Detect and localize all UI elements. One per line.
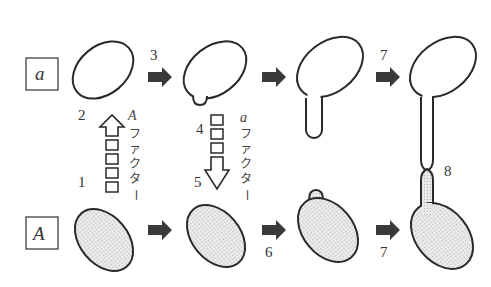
svg-text:フ: フ	[129, 127, 141, 141]
a-factor-label: a フ ァ ク タ ー	[239, 110, 253, 201]
arrow-step-3	[148, 67, 172, 87]
arrow-top-2	[262, 67, 286, 87]
A-factor-signal	[100, 115, 124, 192]
up-arrow-icon	[100, 115, 124, 136]
svg-text:ク: ク	[240, 157, 252, 171]
a-cell-long-projection	[398, 25, 487, 171]
step-label-2: 2	[78, 107, 86, 123]
svg-text:タ: タ	[240, 172, 252, 186]
svg-text:A: A	[127, 108, 137, 123]
mating-type-A-label: A	[31, 223, 45, 244]
diagram-canvas: a A 2 3 7 1 5 6 7	[0, 0, 491, 287]
A-factor-label: A フ ァ ク タ ー	[127, 108, 142, 201]
A-cell-responding	[175, 194, 257, 278]
arrow-bottom-1	[148, 220, 172, 240]
a-factor-signal	[205, 115, 229, 189]
svg-text:タ: タ	[129, 172, 141, 186]
arrow-step-7-top	[376, 67, 400, 87]
step-label-3: 3	[150, 47, 158, 63]
svg-text:ー: ー	[128, 189, 142, 201]
svg-text:フ: フ	[240, 127, 252, 141]
step-label-8: 8	[444, 163, 452, 179]
step-label-7-bottom: 7	[380, 244, 388, 260]
svg-text:ー: ー	[239, 189, 253, 201]
a-cell-projection	[285, 25, 374, 138]
A-cell-fusion-projection	[398, 169, 485, 281]
mating-type-A-box: A	[26, 217, 58, 249]
A-cell-bud-start	[286, 186, 371, 273]
a-cell-resting	[62, 30, 145, 110]
arrow-step-7-bottom	[376, 220, 400, 240]
svg-text:ァ: ァ	[240, 142, 252, 156]
a-cell-bud-start	[173, 30, 258, 111]
svg-text:ァ: ァ	[129, 142, 141, 156]
step-label-4: 4	[196, 121, 204, 137]
mating-type-a-label: a	[35, 63, 45, 84]
mating-type-a-box: a	[26, 58, 58, 90]
A-cell-resting	[63, 198, 145, 282]
svg-text:ク: ク	[129, 157, 141, 171]
arrow-step-6	[262, 220, 286, 240]
step-label-7-top: 7	[380, 47, 388, 63]
svg-text:a: a	[240, 110, 247, 125]
step-label-1: 1	[78, 174, 86, 190]
down-arrow-icon	[205, 157, 229, 189]
step-label-6: 6	[265, 244, 273, 260]
step-label-5: 5	[194, 174, 202, 190]
